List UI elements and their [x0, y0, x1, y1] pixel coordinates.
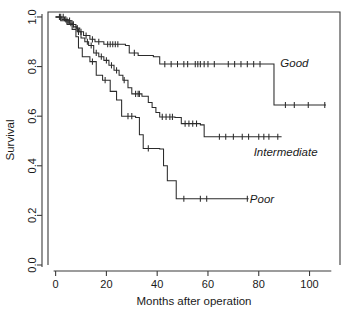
curve-labels: GoodIntermediatePoor	[250, 57, 318, 205]
x-tick-label: 80	[253, 278, 265, 290]
x-tick-label: 100	[300, 278, 318, 290]
y-axis: 0.00.20.40.60.81.0	[26, 9, 42, 272]
y-tick-label: 1.0	[26, 9, 38, 24]
x-axis-title: Months after operation	[136, 295, 251, 307]
y-tick-label: 0.2	[26, 208, 38, 223]
y-axis-title: Survival	[4, 120, 16, 161]
plot-box	[48, 12, 340, 265]
survival-curve-intermediate	[56, 17, 282, 137]
curve-label-poor: Poor	[250, 193, 275, 205]
censor-marks	[59, 14, 324, 202]
x-tick-label: 20	[100, 278, 112, 290]
x-tick-label: 60	[202, 278, 214, 290]
x-axis: 020406080100	[53, 271, 332, 290]
plot-frame	[48, 12, 340, 265]
x-tick-label: 0	[53, 278, 59, 290]
km-survival-figure: 020406080100 0.00.20.40.60.81.0 GoodInte…	[0, 0, 348, 322]
km-plot-svg: 020406080100 0.00.20.40.60.81.0 GoodInte…	[0, 0, 348, 322]
y-tick-label: 0.4	[26, 158, 38, 173]
y-tick-label: 0.0	[26, 257, 38, 272]
curve-label-good: Good	[280, 57, 309, 69]
y-tick-label: 0.8	[26, 59, 38, 74]
x-tick-label: 40	[151, 278, 163, 290]
y-tick-label: 0.6	[26, 109, 38, 124]
curve-label-intermediate: Intermediate	[254, 146, 318, 158]
